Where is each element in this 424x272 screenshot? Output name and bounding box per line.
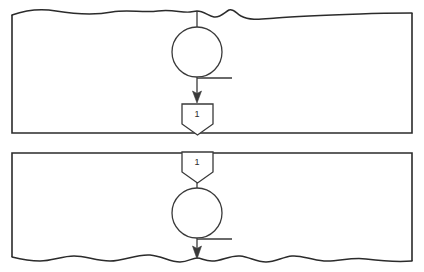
lower-page-fragment: 1 xyxy=(12,152,412,262)
offpage-connector-out-label: 1 xyxy=(194,109,199,119)
offpage-connector-in-label: 1 xyxy=(194,157,199,167)
connector-circle-upper xyxy=(172,27,222,77)
flowchart-diagram: 1 1 xyxy=(0,0,424,272)
upper-page-fragment: 1 xyxy=(12,10,412,135)
connector-circle-lower xyxy=(172,188,222,238)
flowchart-canvas: 1 1 xyxy=(0,0,424,272)
